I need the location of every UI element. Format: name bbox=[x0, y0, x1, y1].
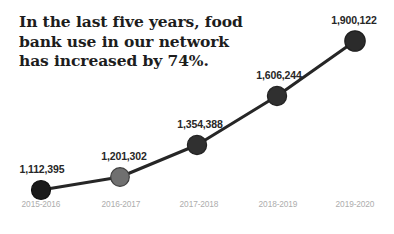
data-point-marker[interactable] bbox=[187, 135, 206, 154]
data-value-label: 1,606,244 bbox=[256, 69, 301, 81]
data-point-marker[interactable] bbox=[267, 86, 286, 105]
data-point-marker[interactable] bbox=[345, 31, 365, 51]
data-value-label: 1,201,302 bbox=[101, 150, 146, 162]
data-value-label: 1,112,395 bbox=[20, 163, 65, 175]
data-point-markers bbox=[32, 31, 366, 200]
x-axis-tick-label: 2017-2018 bbox=[180, 199, 219, 209]
x-axis-tick-label: 2018-2019 bbox=[259, 199, 298, 209]
data-point-marker[interactable] bbox=[111, 168, 130, 187]
data-point-marker[interactable] bbox=[32, 181, 51, 200]
x-axis-tick-label: 2015-2016 bbox=[22, 199, 61, 209]
data-value-label: 1,354,388 bbox=[177, 118, 222, 130]
data-value-label: 1,900,122 bbox=[331, 14, 376, 26]
x-axis-tick-label: 2019-2020 bbox=[336, 199, 375, 209]
x-axis-tick-label: 2016-2017 bbox=[102, 199, 141, 209]
chart-figure: In the last five years, food bank use in… bbox=[0, 0, 394, 234]
series-line bbox=[41, 41, 355, 190]
